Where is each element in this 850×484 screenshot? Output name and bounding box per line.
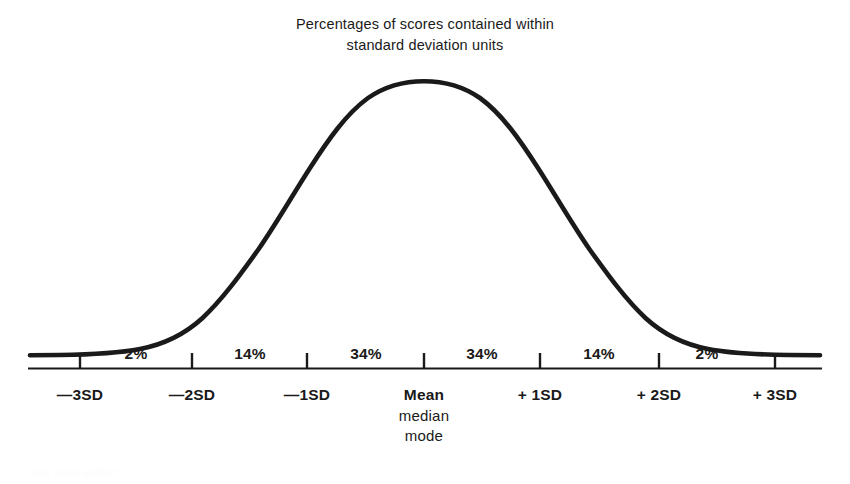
axis-label-mean-mode: mode	[399, 427, 449, 444]
axis-label-minus-2sd: —2SD	[169, 386, 215, 404]
axis-label-mean-primary: Mean	[404, 386, 444, 403]
axis-label-minus-1sd: —1SD	[284, 386, 330, 404]
axis-label-mean-median: median	[399, 407, 449, 424]
axis-tick-labels: —3SD —2SD —1SD Mean median mode + 1SD + …	[0, 0, 850, 484]
axis-label-plus-3sd: + 3SD	[753, 386, 798, 404]
normal-distribution-figure: Percentages of scores contained within s…	[0, 0, 850, 484]
axis-label-plus-1sd: + 1SD	[518, 386, 563, 404]
axis-label-plus-2sd: + 2SD	[637, 386, 682, 404]
axis-label-minus-3sd: —3SD	[57, 386, 103, 404]
scan-artifact-text: faint scan artifact	[28, 466, 119, 478]
axis-label-mean: Mean median mode	[399, 386, 449, 444]
